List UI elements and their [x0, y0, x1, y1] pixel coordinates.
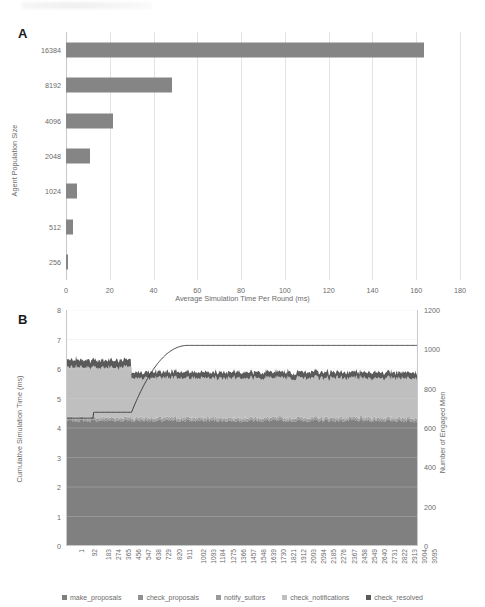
panel-a-y-axis-title: Agent Population Size — [10, 121, 19, 201]
panel-b-axis-line — [66, 310, 67, 546]
panel-b-y-tick-label: 8 — [57, 306, 61, 315]
panel-a-letter: A — [18, 26, 27, 41]
panel-b-x-tick-label: 2185 — [330, 549, 337, 564]
legend-swatch-icon — [366, 595, 371, 600]
panel-a-y-tick-label: 2048 — [21, 152, 61, 161]
panel-a-bar-row — [66, 245, 460, 280]
panel-a-y-tick-label: 4096 — [21, 116, 61, 125]
scan-artifact — [22, 2, 152, 9]
panel-a-x-tick-label: 40 — [150, 286, 158, 295]
panel-a-bar-row — [66, 103, 460, 138]
panel-b-x-tick-label: 1184 — [219, 549, 226, 563]
panel-b-svg — [66, 310, 418, 546]
panel-b-y2-tick-label: 600 — [424, 424, 436, 433]
panel-b-x-tick-label: 2822 — [400, 549, 407, 564]
panel-b-x-tick-label: 1 — [78, 549, 85, 553]
panel-b-x-tick-label: 638 — [155, 549, 162, 560]
panel-b-x-tick-label: 911 — [185, 549, 192, 560]
panel-a-bar-chart: A Agent Population Size Average Simulati… — [0, 18, 485, 300]
panel-a-gridline — [460, 32, 461, 280]
panel-a-bar — [66, 184, 77, 199]
panel-b-legend-label: check_notifications — [290, 594, 349, 601]
panel-b-y-tick-label: 0 — [57, 542, 61, 551]
panel-a-x-tick-label: 120 — [323, 286, 335, 295]
legend-swatch-icon — [216, 595, 221, 600]
panel-a-x-tick-label: 60 — [193, 286, 201, 295]
panel-a-x-tick-label: 100 — [279, 286, 291, 295]
panel-b-x-tick-label: 1821 — [290, 549, 297, 564]
panel-b-letter: B — [18, 312, 27, 327]
legend-swatch-icon — [138, 595, 143, 600]
panel-a-bar-row — [66, 174, 460, 209]
panel-b-x-tick-label: 1548 — [260, 549, 267, 564]
panel-a-bar-row — [66, 32, 460, 67]
panel-b-y-tick-label: 7 — [57, 335, 61, 344]
panel-a-y-tick-label: 8192 — [21, 81, 61, 90]
panel-a-bar — [66, 42, 424, 57]
panel-b-x-tick-label: 92 — [91, 549, 98, 556]
panel-b-legend-label: make_proposals — [70, 594, 121, 601]
panel-b-legend-label: notify_suitors — [224, 594, 265, 601]
panel-b-x-tick-label: 2731 — [390, 549, 397, 564]
legend-swatch-icon — [282, 595, 287, 600]
panel-b-legend-label: check_proposals — [146, 594, 199, 601]
panel-a-bar — [66, 78, 172, 93]
panel-b-y-tick-label: 5 — [57, 394, 61, 403]
panel-b-x-tick-label: 2094 — [320, 549, 327, 564]
panel-b-x-tick-label: 2913 — [411, 549, 418, 564]
panel-b-x-tick-label: 2367 — [350, 549, 357, 564]
panel-a-bar — [66, 255, 68, 270]
panel-a-bar — [66, 113, 113, 128]
panel-b-y-tick-label: 2 — [57, 483, 61, 492]
panel-b-y2-tick-label: 1000 — [424, 345, 440, 354]
panel-b-x-tick-label: 1093 — [209, 549, 216, 564]
panel-a-plot-area — [66, 32, 460, 280]
panel-b-x-tick-label: 456 — [135, 549, 142, 560]
legend-swatch-icon — [62, 595, 67, 600]
panel-b-y2-axis-title: Number of Engaged Men — [438, 383, 447, 483]
panel-a-x-tick-label: 180 — [454, 286, 466, 295]
panel-b-legend-item: make_proposals — [62, 594, 121, 601]
panel-b-x-tick-label: 729 — [166, 549, 173, 560]
panel-b-legend-item: check_resolved — [366, 594, 423, 601]
panel-b-x-tick-label: 820 — [176, 549, 183, 560]
panel-b-legend-item: check_notifications — [282, 594, 349, 601]
panel-b-x-tick-label: 3004 — [421, 549, 428, 564]
panel-b-x-tick-label: 1275 — [230, 549, 237, 564]
panel-a-x-tick-label: 20 — [106, 286, 114, 295]
panel-b-x-tick-label: 1457 — [250, 549, 257, 564]
panel-b-x-tick-label: 2640 — [380, 549, 387, 564]
panel-b-legend-item: check_proposals — [138, 594, 199, 601]
panel-b-y-tick-label: 4 — [57, 424, 61, 433]
panel-b-x-tick-label: 3095 — [431, 549, 438, 564]
panel-b-legend: make_proposalscheck_proposalsnotify_suit… — [0, 594, 485, 601]
panel-a-x-tick-label: 0 — [64, 286, 68, 295]
panel-a-bar-row — [66, 67, 460, 102]
panel-b-x-tick-label: 2003 — [310, 549, 317, 564]
panel-a-bar — [66, 219, 73, 234]
panel-b-legend-label: check_resolved — [374, 594, 423, 601]
panel-b-y2-tick-label: 800 — [424, 384, 436, 393]
panel-b-legend-item: notify_suitors — [216, 594, 265, 601]
panel-b-x-tick-label: 274 — [115, 549, 122, 560]
panel-b-x-tick-label: 2549 — [370, 549, 377, 564]
panel-b-y2-tick-label: 200 — [424, 502, 436, 511]
panel-b-x-tick-label: 1912 — [300, 549, 307, 564]
panel-b-plot-area — [66, 310, 418, 546]
panel-a-y-tick-label: 16384 — [21, 45, 61, 54]
panel-a-x-tick-label: 160 — [410, 286, 422, 295]
panel-b-x-tick-label: 2458 — [360, 549, 367, 564]
panel-a-y-tick-label: 512 — [21, 222, 61, 231]
panel-a-bar-row — [66, 138, 460, 173]
panel-b-x-tick-label: 547 — [145, 549, 152, 560]
panel-b-x-tick-label: 1002 — [199, 549, 206, 564]
panel-b-x-tick-label: 2276 — [340, 549, 347, 564]
panel-b-y2-tick-label: 400 — [424, 463, 436, 472]
panel-a-y-tick-label: 1024 — [21, 187, 61, 196]
panel-a-x-tick-label: 80 — [237, 286, 245, 295]
panel-a-x-tick-label: 140 — [366, 286, 378, 295]
panel-b-y2-tick-label: 1200 — [424, 306, 440, 315]
panel-b-area-make_proposals — [66, 419, 418, 546]
panel-a-bar — [66, 148, 90, 163]
panel-b-y-axis-title: Cumulative Simulation Time (ms) — [15, 383, 24, 483]
